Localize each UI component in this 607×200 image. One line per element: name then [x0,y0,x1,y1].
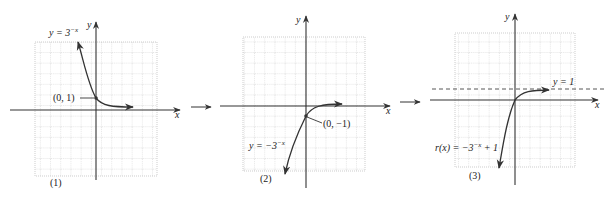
point-0-1 [94,96,98,100]
panel-caption-2: (2) [260,173,272,185]
y-axis-label-1: y [86,19,92,30]
asymptote-label: y = 1 [552,76,574,87]
x-axis-label-3: x [594,99,600,110]
panel-1: (0, 1) y = 3−x y x (1) [10,19,180,189]
x-axis-label-2: x [385,105,391,116]
y-axis-label-2: y [295,14,301,25]
equation-label-3: r(x) = −3−x + 1 [435,141,498,154]
panel-2: (0, −1) y = −3−x y x (2) [220,14,391,188]
equation-label-1: y = 3−x [48,26,79,38]
panel-caption-1: (1) [50,177,62,189]
y-axis-label-3: y [504,11,510,22]
point-label-2: (0, −1) [323,118,350,130]
transformation-figure: (0, 1) y = 3−x y x (1) (0, −1) y = −3−x … [0,0,607,200]
point-label-1: (0, 1) [53,92,75,104]
panel-caption-3: (3) [469,170,481,182]
x-axis-label-1: x [174,109,180,120]
panel-3: y = 1 r(x) = −3−x + 1 y x (3) [430,11,607,185]
